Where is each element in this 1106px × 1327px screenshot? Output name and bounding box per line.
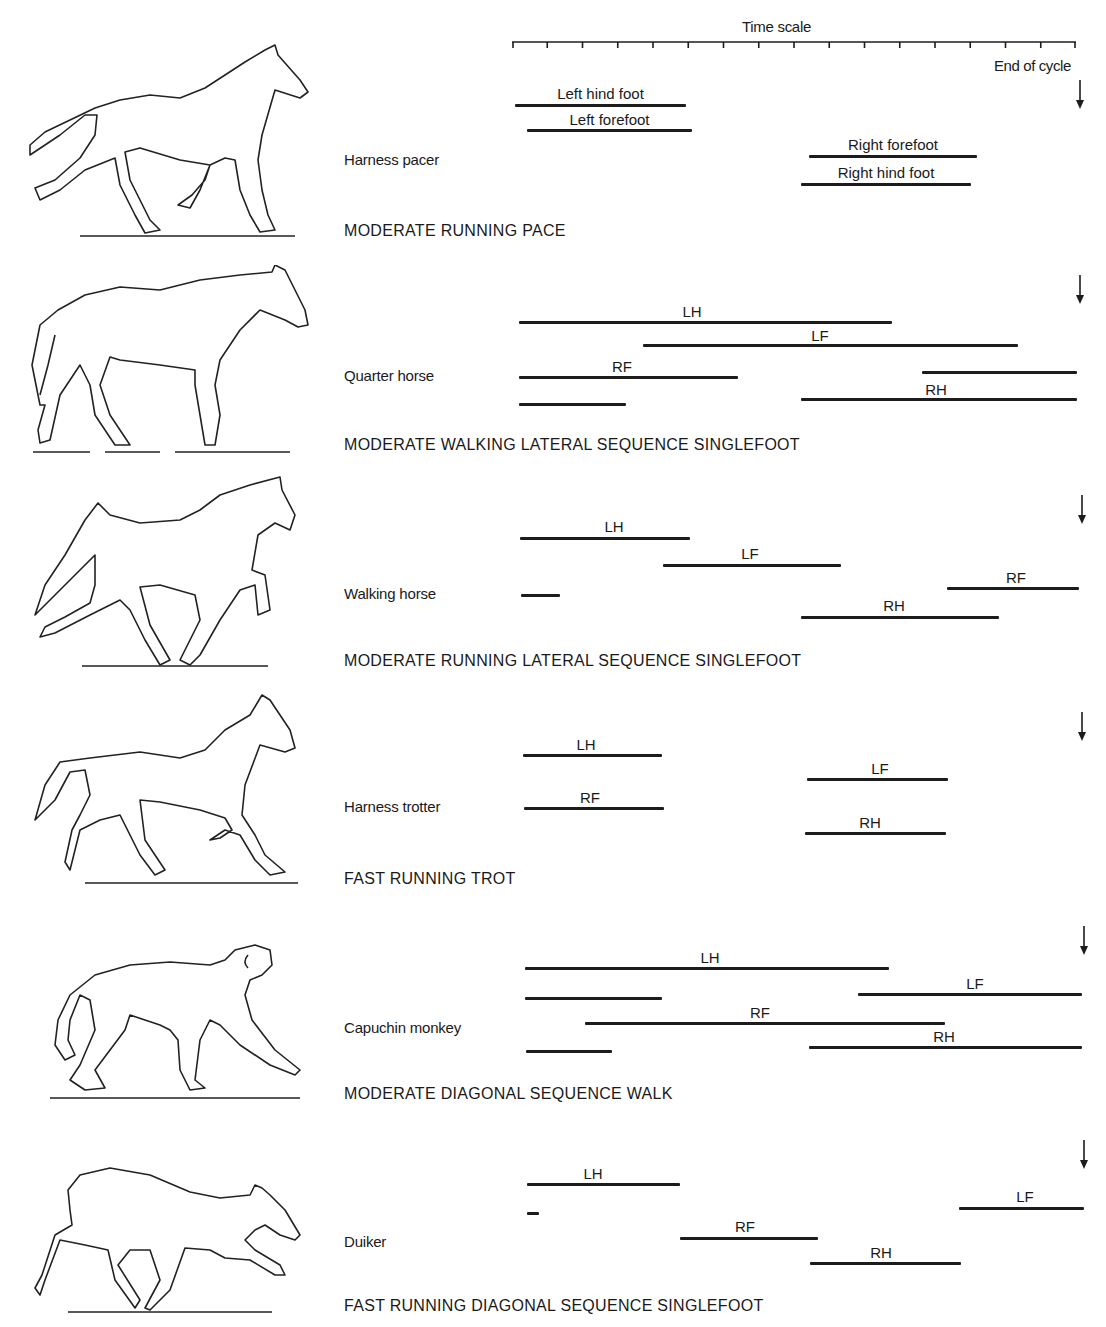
end-of-cycle-arrow-icon <box>1078 1140 1090 1170</box>
footfall-bar <box>801 398 1077 401</box>
animal-name: Harness pacer <box>344 151 439 168</box>
walking-horse-illustration <box>0 475 330 675</box>
footfall-bar <box>959 1207 1084 1210</box>
bar-label: LH <box>682 303 701 320</box>
footfall-bar <box>585 1022 945 1025</box>
duiker-illustration <box>0 1140 330 1320</box>
bar-label: LF <box>741 545 759 562</box>
footfall-bar <box>947 587 1079 590</box>
footfall-bar <box>807 778 948 781</box>
end-of-cycle-arrow-icon <box>1078 926 1090 956</box>
end-of-cycle-arrow-icon <box>1074 275 1086 305</box>
quarter-horse-illustration <box>0 265 330 460</box>
timescale-axis <box>512 40 1076 52</box>
footfall-bar <box>809 155 977 158</box>
capuchin-monkey-illustration <box>0 920 330 1110</box>
bar-label: RF <box>580 789 600 806</box>
footfall-bar <box>810 1262 961 1265</box>
footfall-bar <box>805 832 946 835</box>
footfall-bar <box>525 997 662 1000</box>
footfall-bar <box>801 616 999 619</box>
bar-label: LH <box>583 1165 602 1182</box>
gait-title: MODERATE WALKING LATERAL SEQUENCE SINGLE… <box>344 436 800 454</box>
footfall-bar <box>663 564 841 567</box>
footfall-bar <box>521 594 560 597</box>
animal-name: Duiker <box>344 1233 386 1250</box>
gait-title: FAST RUNNING TROT <box>344 870 516 888</box>
bar-label: LH <box>604 518 623 535</box>
bar-label: Right forefoot <box>848 136 938 153</box>
footfall-bar <box>801 183 971 186</box>
bar-label: Left forefoot <box>569 111 649 128</box>
bar-label: RH <box>933 1028 955 1045</box>
bar-label: RH <box>870 1244 892 1261</box>
bar-label: RF <box>612 358 632 375</box>
footfall-bar <box>527 129 692 132</box>
bar-label: LF <box>1016 1188 1034 1205</box>
footfall-bar <box>527 1212 539 1215</box>
bar-label: RF <box>735 1218 755 1235</box>
bar-label: LH <box>700 949 719 966</box>
end-of-cycle-arrow-icon <box>1076 712 1088 742</box>
footfall-bar <box>520 537 690 540</box>
footfall-bar <box>527 1183 680 1186</box>
footfall-bar <box>519 376 738 379</box>
bar-label: LF <box>966 975 984 992</box>
bar-label: LF <box>811 327 829 344</box>
footfall-bar <box>922 371 1077 374</box>
harness-trotter-illustration <box>0 690 330 890</box>
bar-label: LF <box>871 760 889 777</box>
end-of-cycle-arrow-icon <box>1074 80 1086 110</box>
bar-label: RH <box>883 597 905 614</box>
end-of-cycle-arrow-icon <box>1076 495 1088 525</box>
animal-name: Capuchin monkey <box>344 1019 461 1036</box>
bar-label: RF <box>1006 569 1026 586</box>
footfall-bar <box>526 1050 612 1053</box>
footfall-bar <box>519 321 892 324</box>
bar-label: LH <box>576 736 595 753</box>
animal-name: Quarter horse <box>344 367 434 384</box>
bar-label: RH <box>925 381 947 398</box>
animal-name: Harness trotter <box>344 798 440 815</box>
footfall-bar <box>809 1046 1082 1049</box>
footfall-bar <box>523 754 662 757</box>
footfall-bar <box>680 1237 818 1240</box>
gait-title: MODERATE RUNNING PACE <box>344 222 566 240</box>
footfall-bar <box>524 807 664 810</box>
gait-title: FAST RUNNING DIAGONAL SEQUENCE SINGLEFOO… <box>344 1297 763 1315</box>
footfall-bar <box>525 967 889 970</box>
timescale-title: Time scale <box>742 18 811 35</box>
bar-label: RH <box>859 814 881 831</box>
gait-title: MODERATE RUNNING LATERAL SEQUENCE SINGLE… <box>344 652 801 670</box>
bar-label: Right hind foot <box>838 164 935 181</box>
harness-pacer-illustration <box>0 40 330 250</box>
bar-label: RF <box>750 1004 770 1021</box>
gait-title: MODERATE DIAGONAL SEQUENCE WALK <box>344 1085 673 1103</box>
bar-label: Left hind foot <box>557 85 644 102</box>
end-of-cycle-label: End of cycle <box>994 57 1071 74</box>
footfall-bar <box>519 403 626 406</box>
footfall-bar <box>858 993 1082 996</box>
footfall-bar <box>515 104 686 107</box>
animal-name: Walking horse <box>344 585 436 602</box>
footfall-bar <box>643 344 1018 347</box>
